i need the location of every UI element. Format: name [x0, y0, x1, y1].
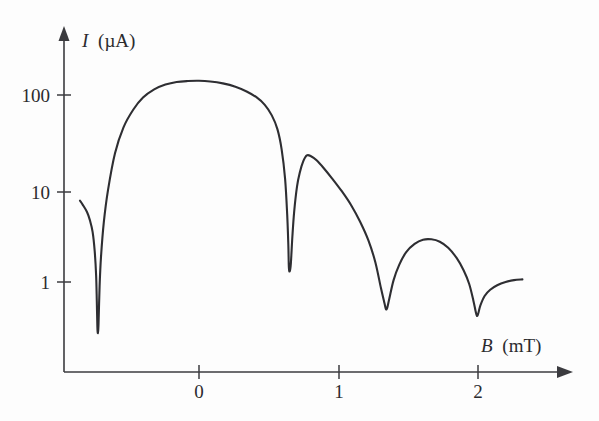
y-axis-arrowhead	[59, 26, 70, 41]
y-axis-title: I (µA)	[81, 30, 135, 52]
x-axis-unit: (mT)	[502, 335, 541, 357]
y-tick-label-1: 1	[41, 272, 51, 293]
diffraction-pattern-chart: 100 10 1 0 1 2 I (µA) B (mT)	[0, 0, 599, 421]
x-tick-label-1: 1	[334, 381, 344, 402]
figure-container: 100 10 1 0 1 2 I (µA) B (mT)	[0, 0, 599, 421]
y-axis-symbol: I	[81, 30, 90, 51]
current-vs-field-curve	[80, 81, 522, 333]
x-tick-label-2: 2	[473, 381, 483, 402]
y-tick-label-10: 10	[31, 182, 50, 203]
y-tick-label-100: 100	[22, 85, 51, 106]
x-tick-label-0: 0	[194, 381, 204, 402]
y-axis-unit: (µA)	[98, 30, 135, 52]
x-axis-title: B (mT)	[481, 335, 541, 357]
x-axis-arrowhead	[557, 366, 573, 378]
x-axis-symbol: B	[481, 335, 493, 356]
